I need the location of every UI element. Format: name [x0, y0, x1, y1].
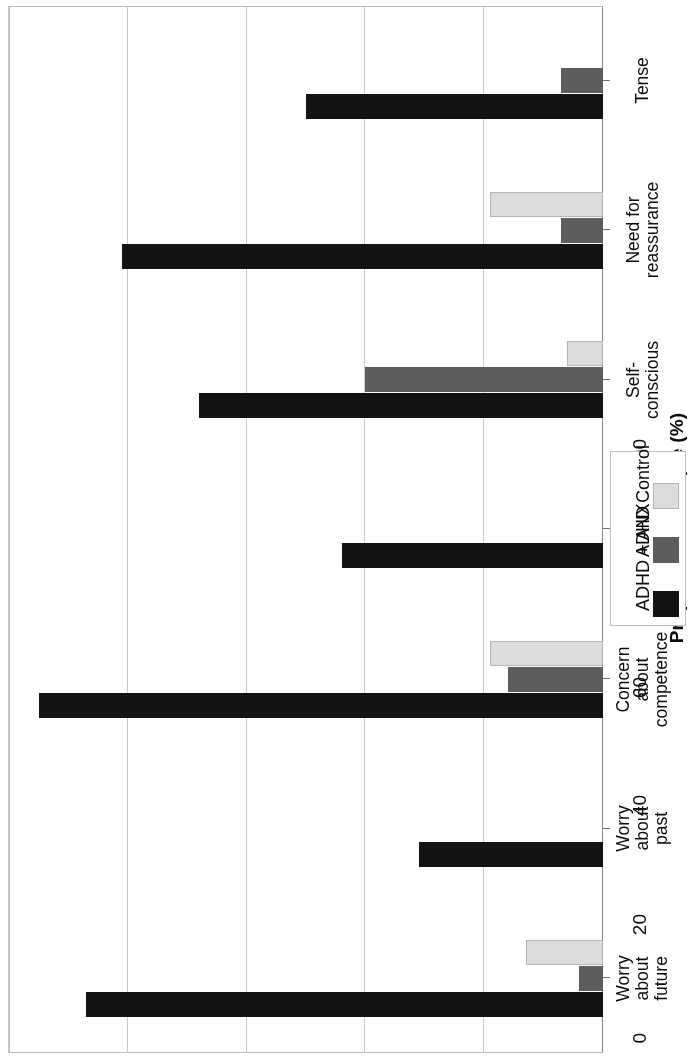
category-label-line: competence: [653, 604, 672, 754]
legend-swatch: [653, 537, 679, 563]
bar: [122, 244, 603, 269]
gridline: [127, 6, 128, 1053]
category-label-line: Need for: [624, 155, 643, 305]
category-label: Concernaboutcompetence: [615, 604, 672, 754]
plot-frame: [9, 6, 603, 1053]
bar: [365, 367, 603, 392]
category-axis-tick: [603, 678, 610, 679]
gridline: [364, 6, 365, 1053]
legend: ADHD + ANXADHDControl: [610, 451, 686, 626]
legend-swatch: [653, 483, 679, 509]
gridline: [246, 6, 247, 1053]
gridline: [8, 6, 9, 1053]
bar: [86, 992, 603, 1017]
legend-swatch: [653, 591, 679, 617]
category-axis-tick: [603, 379, 610, 380]
category-label-line: reassurance: [643, 155, 662, 305]
category-label-line: Worry: [615, 754, 634, 904]
bar: [561, 68, 603, 93]
category-axis-tick: [603, 977, 610, 978]
rotated-figure: Proportion of sample (%) 020406080100 Wo…: [0, 0, 694, 1056]
category-label-line: about: [634, 604, 653, 754]
bar: [419, 842, 603, 867]
category-axis-tick: [603, 80, 610, 81]
legend-item: ADHD: [609, 509, 685, 563]
bar: [490, 192, 603, 217]
category-label-line: Concern: [615, 604, 634, 754]
bar: [39, 693, 603, 718]
legend-item: Control: [609, 455, 685, 509]
bar: [561, 218, 603, 243]
category-label-line: future: [653, 903, 672, 1053]
bar: [199, 393, 603, 418]
plot-area: [9, 6, 603, 1053]
gridline: [483, 6, 484, 1053]
category-label-line: about: [634, 903, 653, 1053]
legend-label: Control: [633, 383, 655, 503]
bar: [579, 966, 603, 991]
bar: [567, 341, 603, 366]
category-label-line: Worry: [615, 903, 634, 1053]
bar: [526, 940, 603, 965]
category-label: Worryaboutfuture: [615, 903, 672, 1053]
bar: [508, 667, 603, 692]
category-label-line: Tense: [634, 6, 653, 156]
category-label: Worryaboutpast: [615, 754, 672, 904]
category-axis-tick: [603, 828, 610, 829]
category-label: Tense: [634, 6, 653, 156]
bar-chart: Proportion of sample (%) 020406080100 Wo…: [0, 0, 694, 1056]
bar: [306, 94, 603, 119]
category-label-line: past: [653, 754, 672, 904]
bar: [490, 641, 603, 666]
bar: [342, 543, 603, 568]
category-axis-tick: [603, 229, 610, 230]
legend-item: ADHD + ANX: [609, 563, 685, 617]
category-label: Need forreassurance: [624, 155, 662, 305]
category-label-line: about: [634, 754, 653, 904]
